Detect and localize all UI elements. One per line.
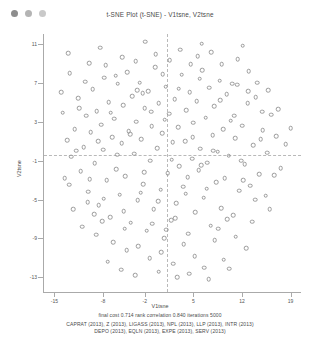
- data-point: [125, 70, 130, 75]
- data-point: [80, 224, 85, 229]
- data-point: [181, 185, 186, 190]
- data-point: [176, 125, 181, 130]
- data-point: [111, 240, 116, 245]
- plot-window: t-SNE Plot (t-SNE) - V1tsne, V2tsne V2ts…: [0, 0, 320, 355]
- data-point: [258, 137, 263, 142]
- data-point: [231, 213, 236, 218]
- data-point: [117, 192, 122, 197]
- data-point: [138, 80, 143, 85]
- data-point: [114, 167, 119, 172]
- data-point: [210, 133, 215, 138]
- data-point: [204, 115, 209, 120]
- data-point: [66, 51, 71, 56]
- data-point: [178, 47, 183, 52]
- data-point: [177, 164, 182, 169]
- data-point: [173, 216, 178, 221]
- data-point: [158, 187, 163, 192]
- data-point: [133, 273, 138, 278]
- data-point: [174, 201, 179, 206]
- data-point: [192, 254, 197, 259]
- data-point: [211, 149, 216, 154]
- data-point: [135, 198, 140, 203]
- data-point: [222, 258, 227, 263]
- data-point: [128, 132, 133, 137]
- data-point: [218, 98, 223, 103]
- data-point: [254, 95, 259, 100]
- data-point: [251, 143, 256, 148]
- data-point: [240, 43, 245, 48]
- data-point: [201, 195, 206, 200]
- data-point: [240, 123, 245, 128]
- data-point: [102, 76, 107, 81]
- data-point: [69, 154, 74, 159]
- window-title: t-SNE Plot (t-SNE) - V1tsne, V2tsne: [0, 11, 320, 18]
- data-point: [229, 118, 234, 123]
- data-point: [250, 220, 255, 225]
- data-point: [233, 136, 238, 141]
- data-point: [195, 99, 200, 104]
- data-point: [115, 81, 120, 86]
- data-point: [112, 116, 117, 121]
- data-point: [138, 190, 143, 195]
- data-point: [108, 215, 113, 220]
- plot-caption: final cost 0.714 rank correlation 0.840 …: [0, 312, 320, 336]
- data-point: [241, 178, 246, 183]
- data-point: [59, 90, 64, 95]
- data-point: [205, 160, 210, 165]
- data-point: [202, 265, 207, 270]
- data-point: [266, 88, 271, 93]
- ticker-list: CAPRAT (2013), Z (2013), LIGASS (2013), …: [0, 321, 320, 337]
- data-point: [276, 107, 281, 112]
- data-point: [101, 196, 106, 201]
- data-point: [222, 176, 227, 181]
- data-point: [279, 166, 284, 171]
- data-point: [149, 124, 154, 129]
- data-point: [188, 90, 193, 95]
- data-point: [221, 127, 226, 132]
- data-point: [224, 92, 229, 97]
- data-point: [197, 168, 202, 173]
- data-point: [215, 150, 220, 155]
- data-point: [272, 173, 277, 178]
- data-point: [200, 68, 205, 73]
- data-point: [165, 171, 170, 176]
- fit-statistics: final cost 0.714 rank correlation 0.840 …: [0, 312, 320, 318]
- data-point: [106, 260, 111, 265]
- data-point: [245, 101, 250, 106]
- data-point: [67, 71, 72, 76]
- data-point: [181, 242, 186, 247]
- data-point: [115, 152, 120, 157]
- data-point: [129, 221, 134, 226]
- data-point: [146, 89, 151, 94]
- data-point: [257, 172, 262, 177]
- data-point: [135, 88, 140, 93]
- data-point: [175, 275, 180, 280]
- data-point: [220, 62, 225, 67]
- data-point: [123, 174, 128, 179]
- data-point: [77, 106, 82, 111]
- data-point: [235, 82, 240, 87]
- data-point: [190, 156, 195, 161]
- data-point: [253, 197, 258, 202]
- data-point: [88, 177, 93, 182]
- data-point: [213, 238, 218, 243]
- data-point: [167, 112, 172, 117]
- data-point: [186, 231, 191, 236]
- data-point: [60, 111, 65, 116]
- data-point: [261, 128, 266, 133]
- data-point: [207, 85, 212, 90]
- data-point: [106, 100, 111, 105]
- data-point: [130, 94, 135, 99]
- data-point: [65, 138, 70, 143]
- data-point: [235, 57, 240, 62]
- data-point: [227, 266, 232, 271]
- data-point: [183, 139, 188, 144]
- data-point: [85, 200, 90, 205]
- data-point: [190, 135, 195, 140]
- data-point: [162, 236, 167, 241]
- data-point: [179, 73, 184, 78]
- data-point: [142, 106, 147, 111]
- data-point: [160, 131, 165, 136]
- data-point: [74, 149, 79, 154]
- data-point: [100, 219, 105, 224]
